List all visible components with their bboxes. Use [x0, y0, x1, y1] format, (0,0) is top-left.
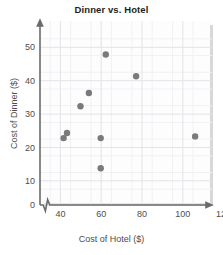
x-axis-label: Cost of Hotel ($): [0, 234, 223, 245]
data-point: [98, 165, 104, 171]
data-point: [86, 90, 92, 96]
y-axis-label: Cost of Dinner ($): [9, 49, 20, 179]
data-point: [133, 73, 139, 79]
x-tick-label-100: 100: [170, 209, 196, 219]
data-points: [60, 51, 198, 171]
data-point: [192, 133, 198, 139]
y-tick-label-0: 0: [17, 200, 35, 210]
y-tick-label-20: 20: [17, 143, 35, 153]
x-tick-label-120: 120: [211, 209, 223, 219]
y-tick-label-10: 10: [17, 176, 35, 186]
data-point: [77, 103, 83, 109]
y-tick-label-30: 30: [17, 109, 35, 119]
x-tick-label-40: 40: [47, 209, 73, 219]
y-tick-label-50: 50: [17, 42, 35, 52]
scatter-plot-figure: Dinner vs. Hotel: [0, 0, 223, 255]
data-point: [64, 130, 70, 136]
y-tick-label-40: 40: [17, 76, 35, 86]
x-tick-label-60: 60: [88, 209, 114, 219]
data-point: [98, 135, 104, 141]
data-point: [103, 51, 109, 57]
x-tick-label-80: 80: [129, 209, 155, 219]
